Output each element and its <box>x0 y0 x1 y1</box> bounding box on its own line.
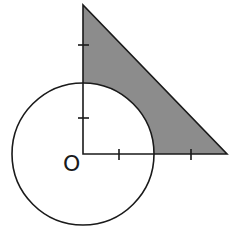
origin-label: O <box>63 151 80 176</box>
geometry-diagram: O <box>0 0 231 237</box>
